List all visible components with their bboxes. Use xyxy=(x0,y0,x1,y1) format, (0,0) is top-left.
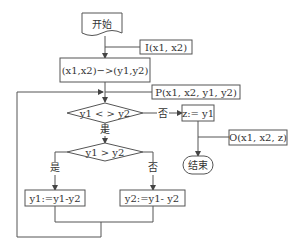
output-label: O(x1, x2, z) xyxy=(229,132,287,143)
zassign-node: z:= y1 xyxy=(182,105,214,121)
assign-label: (x1,x2)−>(y1,y2) xyxy=(62,65,149,76)
cond1-label: y1 < > y2 xyxy=(79,108,130,119)
sub2-node: y2:=y1- y2 xyxy=(120,190,185,206)
end-label: 结束 xyxy=(188,159,208,171)
end-node: 结束 xyxy=(183,156,213,174)
zassign-label: z:= y1 xyxy=(182,108,214,119)
cond2-node: y1 > y2 xyxy=(67,143,143,161)
assign-node: (x1,x2)−>(y1,y2) xyxy=(60,58,150,82)
input-node: I(x1, x2) xyxy=(140,40,192,54)
sub1-label: y1:=y1-y2 xyxy=(28,193,80,204)
print-label: P(x1, x2, y1, y2) xyxy=(155,87,237,98)
cond2-no-label: 否 xyxy=(148,162,158,173)
output-node: O(x1, x2, z) xyxy=(229,130,287,145)
start-node: 开始 xyxy=(82,13,122,36)
sub1-node: y1:=y1-y2 xyxy=(25,190,85,206)
cond1-node: y1 < > y2 xyxy=(67,103,143,123)
flowchart: 开始 I(x1, x2) (x1,x2)−>(y1,y2) P(x1, x2, … xyxy=(0,0,305,250)
start-label: 开始 xyxy=(92,18,112,30)
cond2-label: y1 > y2 xyxy=(85,147,125,158)
input-label: I(x1, x2) xyxy=(145,42,187,53)
cond2-yes-label: 是 xyxy=(50,162,60,173)
print-node: P(x1, x2, y1, y2) xyxy=(152,85,240,99)
sub2-label: y2:=y1- y2 xyxy=(124,193,179,204)
cond1-yes-label: 是 xyxy=(100,124,110,135)
cond1-no-label: 否 xyxy=(158,108,168,119)
